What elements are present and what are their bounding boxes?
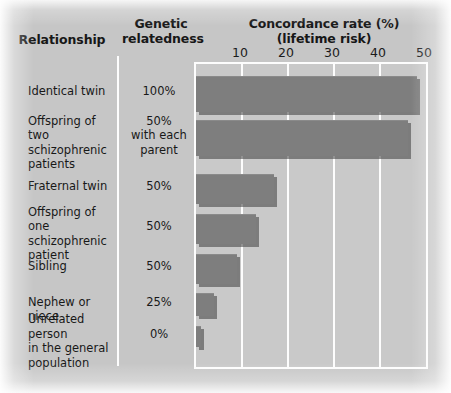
column-header-genetic-relatedness: Geneticrelatedness: [122, 17, 200, 46]
row-relatedness-2: 50%: [122, 179, 196, 194]
bar-0: [196, 76, 417, 112]
x-tick-40: 40: [361, 45, 395, 60]
row-label-1: Offspring of twoschizophrenicpatients: [28, 114, 120, 172]
row-relatedness-1: 50%with eachparent: [122, 114, 196, 158]
bar-3: [196, 214, 256, 244]
row-relatedness-5: 25%: [122, 295, 196, 310]
row-label-6: Unrelated personin the generalpopulation: [28, 312, 120, 370]
row-relatedness-6: 0%: [122, 327, 196, 342]
bar-5: [196, 293, 214, 316]
plot-area: [194, 62, 428, 369]
row-relatedness-3: 50%: [122, 219, 196, 234]
x-tick-50: 50: [407, 45, 441, 60]
x-tick-30: 30: [315, 45, 349, 60]
bar-1: [196, 120, 408, 156]
x-tick-20: 20: [269, 45, 303, 60]
bar-4: [196, 254, 237, 284]
column-header-concordance-rate: Concordance rate (%)(lifetime risk): [208, 17, 440, 46]
row-label-2: Fraternal twin: [28, 179, 120, 194]
row-label-3: Offspring of oneschizophrenicpatient: [28, 205, 120, 263]
row-label-0: Identical twin: [28, 84, 120, 99]
x-tick-10: 10: [223, 45, 257, 60]
bar-6: [196, 326, 201, 347]
schizophrenia-concordance-chart: Relationship Geneticrelatedness Concorda…: [0, 0, 451, 393]
bar-2: [196, 174, 274, 204]
column-header-relationship: Relationship: [12, 33, 112, 48]
row-label-4: Sibling: [28, 259, 120, 274]
row-relatedness-4: 50%: [122, 259, 196, 274]
row-relatedness-0: 100%: [122, 84, 196, 99]
